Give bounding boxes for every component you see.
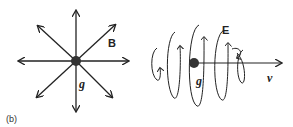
panel-label: (b) <box>6 114 17 124</box>
diagram-canvas: B g (b) E g v <box>0 0 293 127</box>
radial-field-diagram: B g <box>19 11 128 111</box>
charge-label-g: g <box>78 77 85 91</box>
moving-charge-diagram: E g v <box>152 24 281 106</box>
charge-label-g-moving: g <box>195 74 202 88</box>
e-loop-2 <box>167 32 180 98</box>
field-label-e: E <box>222 24 229 36</box>
arrow-down-left <box>37 61 76 97</box>
e-loop-4 <box>215 30 228 100</box>
e-loop-1 <box>152 48 161 80</box>
arrow-up-left <box>38 26 76 61</box>
magnetic-charge <box>71 56 81 66</box>
e-loop-5-arrow <box>232 48 241 58</box>
field-label-b: B <box>108 37 116 49</box>
velocity-label-v: v <box>267 71 273 85</box>
moving-magnetic-charge <box>189 58 199 68</box>
